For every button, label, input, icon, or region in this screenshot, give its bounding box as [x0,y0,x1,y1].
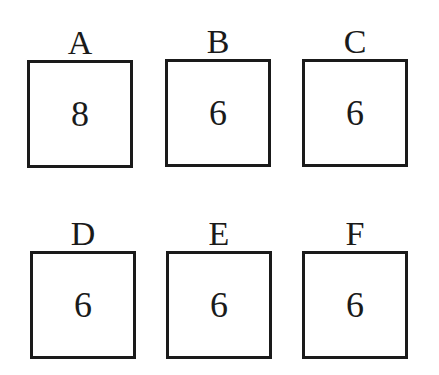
box-frame: 8 [27,60,133,168]
box-frame: 6 [166,251,272,359]
box-label: A [27,26,133,60]
box-label: E [166,217,272,251]
box-value: 6 [74,287,92,323]
box-label: D [30,217,136,251]
box-value: 6 [346,287,364,323]
box-value: 8 [71,96,89,132]
box-frame: 6 [302,251,408,359]
box-value: 6 [346,95,364,131]
box-value: 6 [209,95,227,131]
box-label: B [165,25,271,59]
box-label: C [302,25,408,59]
box-frame: 6 [30,251,136,359]
box-frame: 6 [302,59,408,167]
box-frame: 6 [165,59,271,167]
box-label: F [302,217,408,251]
box-value: 6 [210,287,228,323]
